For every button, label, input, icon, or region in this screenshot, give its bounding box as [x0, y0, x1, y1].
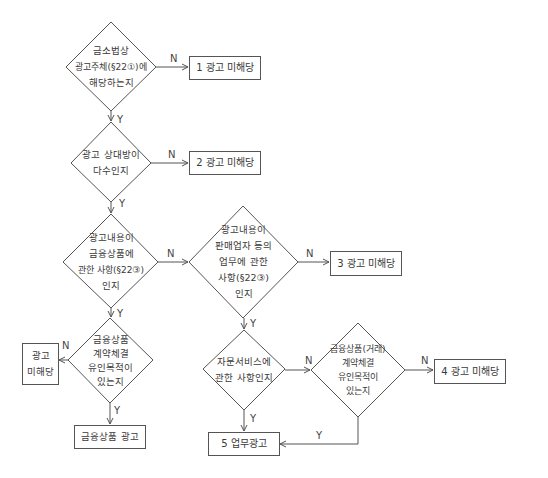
- outcome-left-not-ad: 광고 미해당: [22, 343, 59, 385]
- edge-label-d2-no: N: [168, 149, 175, 160]
- decision-d1-line: 해당하는지: [66, 75, 156, 91]
- outcome-5-business-ad: 5 업무광고: [208, 432, 280, 456]
- decision-d7-line: 유인목적이: [311, 370, 405, 384]
- edge-label-d1-no: N: [170, 53, 177, 64]
- edge-label-d6-yes: Y: [250, 413, 256, 424]
- outcome-financial-product-ad-label: 금융상품 광고: [81, 429, 138, 445]
- edge-label-d7-no: N: [421, 355, 428, 366]
- edge-label-d5-no: N: [62, 340, 69, 351]
- edge-label-d4-yes: Y: [250, 318, 256, 329]
- outcome-3-label: 3 광고 미해당: [337, 256, 395, 272]
- outcome-1-not-ad: 1 광고 미해당: [189, 56, 261, 80]
- decision-d7-line: 금융상품(거래): [311, 342, 405, 356]
- decision-d1-line: 금소법상: [66, 43, 156, 59]
- outcome-4-label: 4 광고 미해당: [441, 364, 499, 380]
- decision-d4-line: 인지: [189, 286, 298, 302]
- edge-label-d4-no: N: [306, 248, 313, 259]
- edge-label-d1-yes: Y: [117, 114, 123, 125]
- decision-d3-line: 금융상품에: [63, 246, 159, 262]
- outcome-5-label: 5 업무광고: [221, 436, 267, 452]
- outcome-1-label: 1 광고 미해당: [196, 60, 254, 76]
- decision-d6-line: 자문서비스에: [203, 354, 285, 370]
- decision-d2-line: 다수인지: [71, 163, 151, 179]
- decision-d3-line: 인지: [63, 278, 159, 294]
- decision-d5-line: 유인목적이: [68, 361, 153, 375]
- decision-d5-line: 금융상품: [68, 333, 153, 347]
- decision-d4-line: 판매업자 등의: [189, 238, 298, 254]
- decision-d5-line: 계약체결: [68, 347, 153, 361]
- outcome-2-not-ad: 2 광고 미해당: [189, 151, 261, 175]
- outcome-left-label-line1: 광고: [32, 348, 50, 364]
- decision-d6-label: 자문서비스에 관한 사항인지: [203, 354, 285, 386]
- decision-d4-label: 광고내용이 판매업자 등의 업무에 관한 사항(§22③) 인지: [189, 222, 298, 302]
- edge-label-d3-yes: Y: [117, 308, 123, 319]
- outcome-3-not-ad: 3 광고 미해당: [330, 251, 402, 276]
- edge-label-d5-yes: Y: [114, 405, 120, 416]
- decision-d3-label: 광고내용이 금융상품에 관한 사항(§22③) 인지: [63, 230, 159, 294]
- outcome-left-label-line2: 미해당: [27, 364, 54, 380]
- decision-d7-label: 금융상품(거래) 계약체결 유인목적이 있는지: [311, 342, 405, 398]
- decision-d3-line: 관한 사항(§22③): [63, 262, 159, 278]
- decision-d2-label: 광고 상대방이 다수인지: [71, 147, 151, 179]
- decision-d3-line: 광고내용이: [63, 230, 159, 246]
- decision-d1-label: 금소법상 광고주체(§22①)에 해당하는지: [66, 43, 156, 91]
- edge-label-d3-no: N: [167, 248, 174, 259]
- decision-d6-line: 관한 사항인지: [203, 370, 285, 386]
- decision-d5-line: 있는지: [68, 375, 153, 389]
- decision-d7-line: 계약체결: [311, 356, 405, 370]
- decision-d5-label: 금융상품 계약체결 유인목적이 있는지: [68, 333, 153, 389]
- decision-d4-line: 광고내용이: [189, 222, 298, 238]
- outcome-4-not-ad: 4 광고 미해당: [434, 359, 506, 384]
- decision-d2-line: 광고 상대방이: [71, 147, 151, 163]
- edge-label-d7-yes: Y: [316, 430, 322, 441]
- decision-d4-line: 업무에 관한: [189, 254, 298, 270]
- decision-d1-line: 광고주체(§22①)에: [66, 59, 156, 75]
- decision-d7-line: 있는지: [311, 384, 405, 398]
- edge-label-d6-no: N: [305, 355, 312, 366]
- edge-label-d2-yes: Y: [119, 198, 125, 209]
- outcome-financial-product-ad: 금융상품 광고: [74, 425, 146, 449]
- decision-d4-line: 사항(§22③): [189, 270, 298, 286]
- outcome-2-label: 2 광고 미해당: [196, 155, 254, 171]
